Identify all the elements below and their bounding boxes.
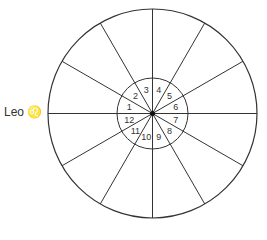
house-number-12: 12 <box>124 115 134 125</box>
house-number-8: 8 <box>167 126 172 136</box>
house-number-10: 10 <box>141 132 151 142</box>
sign-name: Leo <box>4 105 24 119</box>
house-number-2: 2 <box>133 91 138 101</box>
center-dot <box>150 111 155 116</box>
leo-glyph-icon: ♌ <box>27 105 42 119</box>
house-number-11: 11 <box>131 126 140 136</box>
house-number-1: 1 <box>127 102 132 112</box>
house-number-4: 4 <box>156 85 161 95</box>
ascendant-sign-label: Leo ♌ <box>4 105 42 119</box>
house-number-6: 6 <box>173 102 178 112</box>
house-number-9: 9 <box>156 132 161 142</box>
house-number-7: 7 <box>173 115 178 125</box>
house-number-5: 5 <box>167 91 172 101</box>
house-number-3: 3 <box>144 85 149 95</box>
